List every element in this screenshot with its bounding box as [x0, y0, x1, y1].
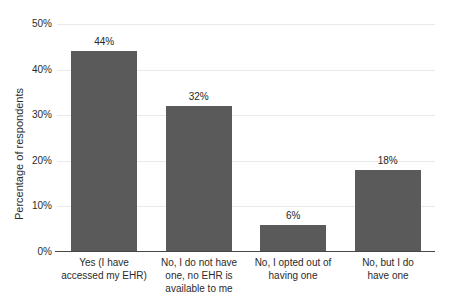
y-tick-label: 0% — [0, 246, 52, 258]
y-tick-label: 50% — [0, 18, 52, 30]
bar-slot: 32% — [152, 24, 247, 252]
bar-chart: Percentage of respondents 50% 40% 30% 20… — [0, 0, 455, 307]
y-tick-label: 10% — [0, 200, 52, 212]
x-axis-line — [55, 251, 435, 252]
x-category-label: Yes (I have accessed my EHR) — [49, 256, 159, 282]
bar: 18% — [355, 170, 421, 252]
bar-value-label: 32% — [189, 91, 209, 102]
bar-value-label: 18% — [378, 155, 398, 166]
plot-area: 44% 32% 6% 18% — [57, 24, 435, 252]
bar-slot: 18% — [341, 24, 436, 252]
bar-value-label: 44% — [94, 36, 114, 47]
bar-value-label: 6% — [286, 210, 300, 221]
bar: 32% — [166, 106, 232, 252]
bar-slot: 6% — [246, 24, 341, 252]
bar-slot: 44% — [57, 24, 152, 252]
x-category-label: No, I opted out of having one — [238, 256, 348, 282]
x-category-label: No, but I do have one — [333, 256, 443, 282]
bar: 6% — [260, 225, 326, 252]
y-tick-label: 20% — [0, 155, 52, 167]
y-tick-label: 30% — [0, 109, 52, 121]
bar: 44% — [71, 51, 137, 252]
y-tick-label: 40% — [0, 64, 52, 76]
